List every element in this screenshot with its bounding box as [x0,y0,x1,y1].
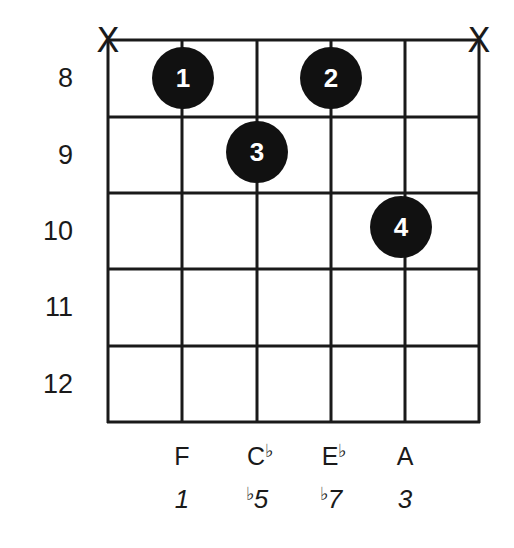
chord-diagram: X X 8 9 10 11 12 1 2 3 4 F C♭ E♭ A 1 ♭5 … [0,0,514,548]
note-name: C♭ [230,436,290,471]
finger-number: 1 [176,63,190,93]
finger-dot: 1 [152,47,214,109]
note-name: A [375,436,435,471]
finger-number: 2 [324,63,338,93]
finger-number: 3 [250,137,264,167]
fret-number: 9 [23,140,73,170]
finger-dot: 4 [370,196,432,258]
finger-number: 4 [394,212,408,242]
fret-number: 12 [23,369,73,399]
interval-label: ♭5 [227,479,287,514]
note-name: E♭ [304,436,364,471]
fret-number: 11 [23,292,73,322]
interval-label: 1 [152,479,212,514]
note-name: F [152,436,212,471]
fret-number: 8 [23,63,73,93]
finger-dot: 2 [300,47,362,109]
finger-dot: 3 [226,121,288,183]
mute-x-icon: X [93,23,123,57]
fret-number: 10 [23,216,73,246]
mute-x-icon: X [464,23,494,57]
interval-label: 3 [375,479,435,514]
interval-label: ♭7 [301,479,361,514]
